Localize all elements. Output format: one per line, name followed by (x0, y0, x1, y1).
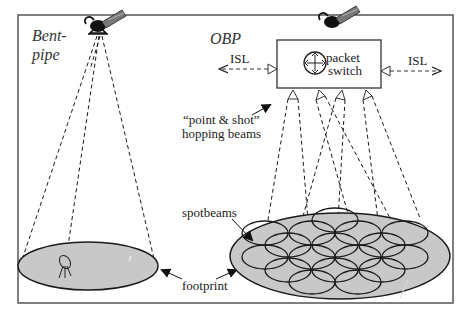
diagram-canvas (0, 0, 471, 322)
beam-feeds (288, 90, 372, 100)
bentpipe-beams (20, 36, 155, 266)
bentpipe-title-line1: Bent- (32, 26, 67, 45)
isl-right-label: ISL (408, 54, 428, 68)
footprint-label: footprint (182, 279, 228, 293)
hopping-beams (268, 96, 420, 221)
hopping-beams-label-line2: hopping beams (182, 127, 261, 141)
obp-title: OBP (210, 29, 241, 48)
bentpipe-satellite-icon (85, 10, 126, 34)
packet-switch-icon (304, 52, 326, 74)
bentpipe-title-line2: pipe (32, 45, 60, 64)
spotbeams-label: spotbeams (182, 206, 237, 220)
packet-switch-label-line2: switch (328, 64, 362, 78)
bentpipe-footprint (18, 242, 158, 290)
footprint-arrow-left (162, 270, 182, 279)
obp-satellite-icon (319, 6, 360, 28)
hopping-beams-label-line1: “point & shot” (183, 113, 260, 127)
isl-left-label: ISL (230, 52, 250, 66)
